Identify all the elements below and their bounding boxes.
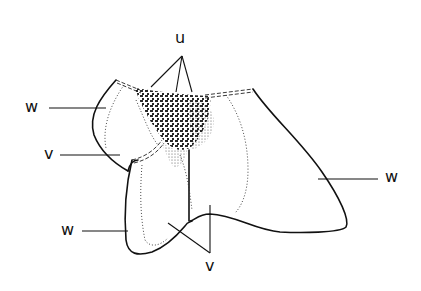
tooth-diagram: u w v w v w [0,0,421,291]
diagram-drawing [0,0,421,291]
leader-lines [49,56,378,253]
stippled-lesion [135,88,214,168]
label-w-upper-left: w [25,99,38,115]
label-v-left: v [44,146,53,162]
label-u-top: u [175,30,185,46]
label-w-right: w [385,169,398,185]
outline-shape [92,80,346,254]
label-w-lower-left: w [61,222,74,238]
label-v-bottom: v [205,258,214,274]
